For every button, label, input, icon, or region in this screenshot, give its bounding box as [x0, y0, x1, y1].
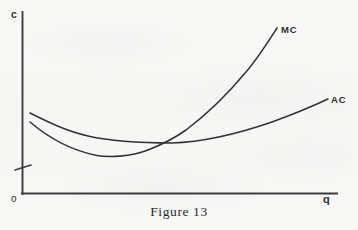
- figure-page: MC AC c q o Figure 13: [0, 0, 358, 230]
- ac-curve: [30, 99, 328, 143]
- mc-curve: [30, 28, 277, 157]
- figure-caption: Figure 13: [0, 205, 358, 220]
- ac-curve-label: AC: [331, 95, 347, 105]
- origin-label: o: [11, 194, 17, 204]
- mc-curve-label: MC: [281, 25, 298, 35]
- y-axis-label: c: [11, 9, 17, 20]
- cost-curve-diagram: [0, 0, 358, 230]
- x-axis-label: q: [323, 194, 330, 205]
